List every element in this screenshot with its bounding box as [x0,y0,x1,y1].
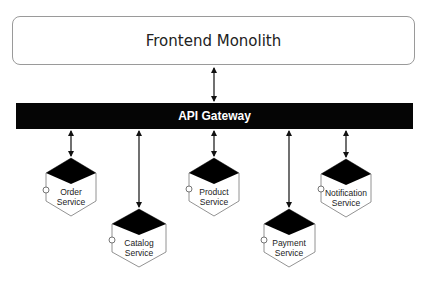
api-gateway-label: API Gateway [178,109,251,123]
payment-service-label: Payment Service [259,238,319,258]
frontend-monolith-box[interactable]: Frontend Monolith [12,16,415,65]
order-service-label: Order Service [41,187,101,207]
notification-service-label: Notification Service [316,188,376,208]
frontend-monolith-label: Frontend Monolith [146,32,282,50]
product-service-label: Product Service [184,187,244,207]
catalog-service-label: Catalog Service [109,238,169,258]
api-gateway-bar[interactable]: API Gateway [16,103,413,129]
